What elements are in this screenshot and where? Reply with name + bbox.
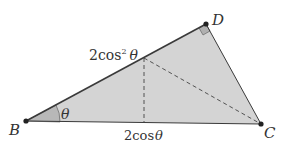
angle-theta-marker: [26, 105, 60, 122]
label-c: C: [264, 124, 276, 142]
label-side-bd: 2cos2θ: [89, 47, 138, 63]
point-c: [258, 121, 263, 126]
label-b: B: [8, 121, 20, 139]
point-b: [23, 118, 28, 123]
label-d: D: [211, 11, 224, 29]
triangle-diagram: B D C θ 2cos2θ 2cosθ: [0, 0, 285, 149]
point-d: [203, 21, 208, 26]
label-side-bc: 2cosθ: [124, 128, 163, 143]
label-angle-theta: θ: [61, 106, 70, 122]
